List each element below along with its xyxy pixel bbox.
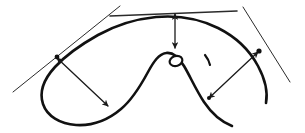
junction-dot-left xyxy=(55,55,60,60)
arrow-right-diagonal xyxy=(209,52,258,98)
tangent-top xyxy=(110,11,237,16)
junction-dot-bottom-right xyxy=(207,96,211,100)
arrow-left-diagonal xyxy=(57,58,108,106)
tangent-right xyxy=(243,7,290,82)
figure-container: Hand-drawn closed curve with tangent lin… xyxy=(0,0,305,133)
curve-diagram-svg xyxy=(0,0,305,133)
junction-dot-right xyxy=(256,48,261,53)
ellipse-marker xyxy=(168,54,183,68)
main-outline-curve xyxy=(42,16,267,126)
tick-mark xyxy=(205,55,210,65)
tangent-line-group xyxy=(13,6,290,92)
tangent-left xyxy=(13,6,120,92)
dimension-arrow-group xyxy=(57,14,258,106)
